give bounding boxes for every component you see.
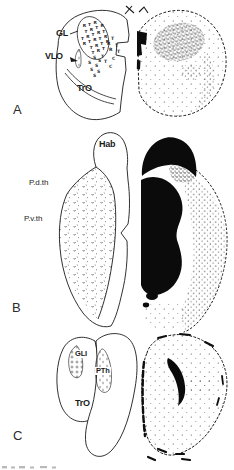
panel-letter-c: C [13,429,22,442]
photo-c-medium-patch [188,374,212,394]
marker-symbol: R [95,43,99,48]
panel-letter-a: A [13,103,22,116]
marker-symbol: T [88,39,91,44]
marker-symbol: T [102,46,105,51]
marker-symbol: R [97,30,101,35]
marker-symbol: T [104,59,108,64]
panel-c-drawing [57,334,137,457]
marker-symbol: R [90,27,94,32]
panel-letter-b: B [12,301,21,314]
marker-symbol: T [115,43,119,48]
photo-b-mass-tail [146,292,158,300]
marker-symbol: T [85,29,88,34]
label-pvth: P.v.th [24,215,42,223]
label-tro-c: TrO [75,399,90,408]
label-gl: GL [56,29,68,38]
marker-symbol: S [97,69,100,74]
photo-a-medium-patch [181,64,201,80]
panel-a-photo [137,10,226,116]
marker-symbol: R [97,48,101,53]
marker-symbol: T [95,25,98,30]
figure-canvas: RTRTRTRTRTRTRTRTRTRTRTRTTRTRTSTSSTCSSSCS… [0,0,234,470]
gl-leader-line [70,31,78,34]
marker-symbol: T [90,45,93,50]
marker-symbol: S [93,73,96,78]
marker-symbol: T [99,36,102,41]
label-gli: GLI [74,350,88,358]
marker-symbol: R [93,37,97,42]
marker-symbol: R [107,41,111,46]
marker-symbol: S [90,67,93,72]
marker-symbol: C [109,64,113,69]
marker-symbol: T [81,36,84,41]
photo-b-medial-black-mass [141,177,183,295]
label-pth: PTh [95,367,111,375]
marker-symbol: C [112,56,116,61]
marker-symbol: R [83,23,87,28]
marker-symbol: T [92,32,95,37]
marker-symbol: T [88,22,91,27]
marker-symbol: R [83,41,87,46]
figure-artwork: RTRTRTRTRTRTRTRTRTRTRTRTTRTRTSTSSTCSSSCS [0,0,234,470]
marker-symbol: S [95,63,98,68]
marker-symbol: T [111,36,115,41]
marker-symbol: S [98,58,101,63]
panel-b-photo [141,137,227,332]
marker-symbol: T [117,49,121,54]
marker-symbol: R [93,20,97,25]
marker-symbol: R [109,47,113,52]
photo-a-midline-blob-small [137,60,141,70]
photo-b-ventral-sparse [143,301,187,329]
marker-symbol: T [102,29,105,34]
panel-b-drawing [59,133,129,327]
panel-a-symbol-field: RTRTRTRTRTRTRTRTRTRTRTRTTRTRTSTSSTCSSSCS [81,20,121,78]
marker-symbol: T [100,41,103,46]
cropped-caption-fragments [2,466,56,469]
label-hab: Hab [99,140,115,149]
panel-c-photo [142,334,227,460]
marker-symbol: R [86,34,90,39]
vlo-region [75,49,81,68]
marker-symbol: S [93,55,96,60]
label-tro-a: TrO [77,84,92,93]
label-vlo: VLO [45,52,63,61]
marker-symbol: S [88,60,91,65]
label-pdth: P.d.th [29,179,48,187]
midline-notch-mark [125,6,148,14]
